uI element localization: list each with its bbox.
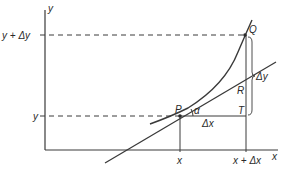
delta-y-label: Δy	[255, 71, 269, 82]
point-label-R: R	[237, 85, 244, 96]
function-curve	[150, 20, 252, 124]
point-Q-dot	[243, 33, 247, 37]
tick-label-x-plus-dx: x + Δx	[232, 155, 262, 166]
x-axis-label: x	[271, 151, 278, 162]
tick-label-y: y	[32, 111, 39, 122]
angle-label-alpha: α	[194, 105, 200, 116]
point-label-Q: Q	[249, 24, 257, 35]
point-label-P: P	[175, 104, 182, 115]
tick-label-y-plus-dy: y + Δy	[1, 30, 31, 41]
tangent-line	[105, 62, 276, 163]
delta-x-label: Δx	[201, 118, 215, 129]
y-axis-label: y	[47, 3, 54, 14]
derivative-diagram: y x y + Δy y x x + Δx P Q R T α Δx Δy	[0, 0, 287, 180]
tick-label-x: x	[176, 155, 183, 166]
point-label-T: T	[238, 105, 245, 116]
